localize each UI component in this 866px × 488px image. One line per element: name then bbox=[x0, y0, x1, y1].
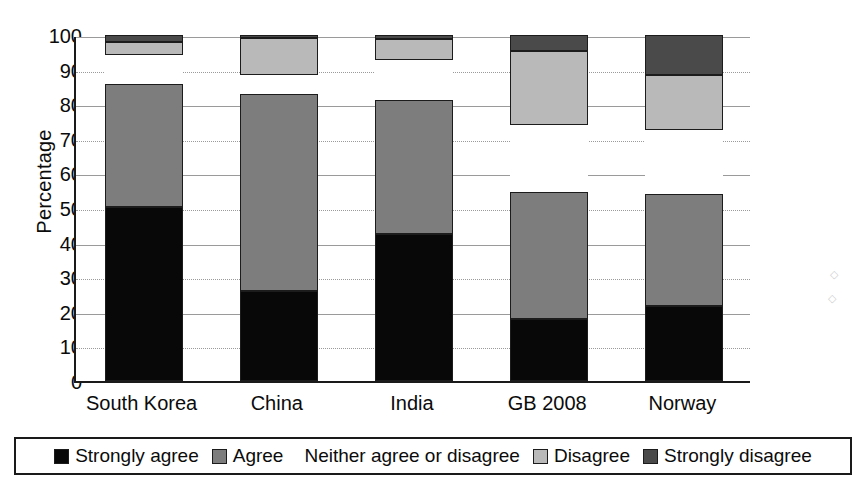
x-tick-label-norway: Norway bbox=[597, 392, 767, 415]
segment-agree[interactable] bbox=[645, 194, 723, 305]
segment-strongly-disagree[interactable] bbox=[645, 35, 723, 75]
segment-disagree[interactable] bbox=[645, 75, 723, 130]
legend-label: Strongly disagree bbox=[664, 445, 812, 467]
legend-swatch-icon bbox=[296, 449, 298, 464]
y-tick-label-100: 100 bbox=[16, 25, 82, 48]
segment-neither-agree-or-disagree[interactable] bbox=[645, 130, 723, 194]
legend-item-neither-agree-or-disagree[interactable]: Neither agree or disagree bbox=[296, 445, 519, 467]
y-tick-label-10: 10 bbox=[16, 336, 82, 359]
legend-label: Agree bbox=[233, 445, 284, 467]
y-tick-label-30: 30 bbox=[16, 267, 82, 290]
y-tick-label-80: 80 bbox=[16, 94, 82, 117]
legend-label: Disagree bbox=[554, 445, 630, 467]
legend-label: Neither agree or disagree bbox=[304, 445, 519, 467]
segment-strongly-agree[interactable] bbox=[240, 291, 318, 381]
segment-agree[interactable] bbox=[375, 100, 453, 234]
stacked-bar-chart-figure: Percentage 0102030405060708090100 South … bbox=[0, 0, 866, 488]
segment-agree[interactable] bbox=[240, 94, 318, 291]
legend-item-strongly-disagree[interactable]: Strongly disagree bbox=[643, 445, 812, 467]
segment-neither-agree-or-disagree[interactable] bbox=[510, 125, 588, 192]
plot-area bbox=[74, 37, 750, 383]
y-tick-label-0: 0 bbox=[16, 371, 82, 394]
scan-artifact: ◇ bbox=[828, 292, 836, 305]
scan-artifact: ◇ bbox=[830, 268, 838, 281]
legend-label: Strongly agree bbox=[75, 445, 199, 467]
bar-india[interactable] bbox=[375, 35, 453, 381]
y-tick-label-20: 20 bbox=[16, 302, 82, 325]
segment-strongly-disagree[interactable] bbox=[105, 35, 183, 42]
segment-agree[interactable] bbox=[105, 84, 183, 207]
segment-strongly-agree[interactable] bbox=[645, 306, 723, 381]
segment-disagree[interactable] bbox=[240, 38, 318, 74]
segment-strongly-disagree[interactable] bbox=[510, 35, 588, 51]
y-tick-label-60: 60 bbox=[16, 163, 82, 186]
y-tick-label-70: 70 bbox=[16, 129, 82, 152]
segment-neither-agree-or-disagree[interactable] bbox=[375, 60, 453, 100]
legend-item-strongly-agree[interactable]: Strongly agree bbox=[54, 445, 199, 467]
legend-item-agree[interactable]: Agree bbox=[212, 445, 284, 467]
segment-disagree[interactable] bbox=[105, 42, 183, 55]
segment-neither-agree-or-disagree[interactable] bbox=[240, 75, 318, 94]
segment-strongly-agree[interactable] bbox=[105, 207, 183, 381]
chart-legend: Strongly agreeAgreeNeither agree or disa… bbox=[14, 437, 852, 475]
segment-agree[interactable] bbox=[510, 192, 588, 318]
legend-swatch-icon bbox=[643, 449, 658, 464]
legend-swatch-icon bbox=[212, 449, 227, 464]
bar-china[interactable] bbox=[240, 35, 318, 381]
segment-neither-agree-or-disagree[interactable] bbox=[105, 55, 183, 84]
legend-swatch-icon bbox=[533, 449, 548, 464]
y-tick-label-90: 90 bbox=[16, 60, 82, 83]
legend-swatch-icon bbox=[54, 449, 69, 464]
y-tick-label-50: 50 bbox=[16, 198, 82, 221]
bar-gb-2008[interactable] bbox=[510, 35, 588, 381]
segment-strongly-agree[interactable] bbox=[375, 234, 453, 381]
bar-south-korea[interactable] bbox=[105, 35, 183, 381]
segment-strongly-disagree[interactable] bbox=[375, 35, 453, 39]
segment-strongly-disagree[interactable] bbox=[240, 35, 318, 38]
segment-disagree[interactable] bbox=[375, 39, 453, 60]
bar-norway[interactable] bbox=[645, 35, 723, 381]
legend-item-disagree[interactable]: Disagree bbox=[533, 445, 630, 467]
segment-disagree[interactable] bbox=[510, 51, 588, 125]
y-tick-label-40: 40 bbox=[16, 233, 82, 256]
segment-strongly-agree[interactable] bbox=[510, 319, 588, 381]
